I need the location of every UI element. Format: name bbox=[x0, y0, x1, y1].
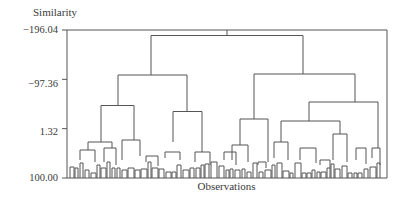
dendrogram-branches bbox=[70, 30, 380, 178]
dendrogram-plot bbox=[0, 0, 403, 201]
